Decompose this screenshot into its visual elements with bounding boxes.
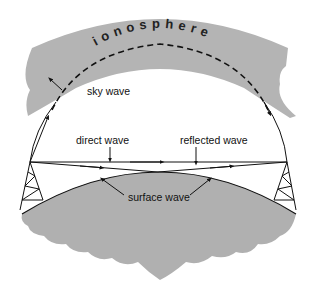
radio-propagation-diagram: ionosphere xyxy=(0,0,316,289)
left-antenna-tower-icon xyxy=(20,162,43,210)
direct-wave-label: direct wave xyxy=(76,135,129,146)
reflected-wave-label: reflected wave xyxy=(180,135,248,146)
reflected-wave-line xyxy=(30,162,287,172)
sky-wave-label: sky wave xyxy=(87,86,130,97)
surface-wave-label: surface wave xyxy=(128,192,190,203)
ionosphere-band xyxy=(25,19,296,118)
earth-surface xyxy=(22,172,296,280)
